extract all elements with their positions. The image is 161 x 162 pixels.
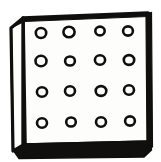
right-thick-edge: [146, 13, 153, 149]
hole-r1c2: [63, 27, 74, 37]
hole-r2c1: [36, 56, 47, 66]
sketch-artboard: Sketched perforated box panel Hand-drawn…: [0, 0, 161, 162]
hole-r3c2: [65, 86, 75, 95]
hole-r1c3: [95, 27, 104, 36]
hole-r4c4: [125, 116, 135, 125]
hole-r2c4: [124, 55, 134, 65]
hole-r3c1: [37, 87, 47, 97]
hole-r4c1: [37, 118, 47, 127]
hole-r4c2: [66, 118, 76, 127]
hole-r3c3: [96, 86, 107, 96]
hole-r3c4: [124, 85, 134, 94]
hole-r1c4: [123, 26, 133, 35]
base-shadow: [13, 141, 152, 159]
box-sketch-illustration: Sketched perforated box panel Hand-drawn…: [0, 0, 161, 162]
hole-r2c3: [95, 55, 105, 64]
hole-r1c1: [36, 28, 46, 38]
hole-r2c2: [65, 57, 75, 66]
hole-r4c3: [96, 117, 106, 126]
